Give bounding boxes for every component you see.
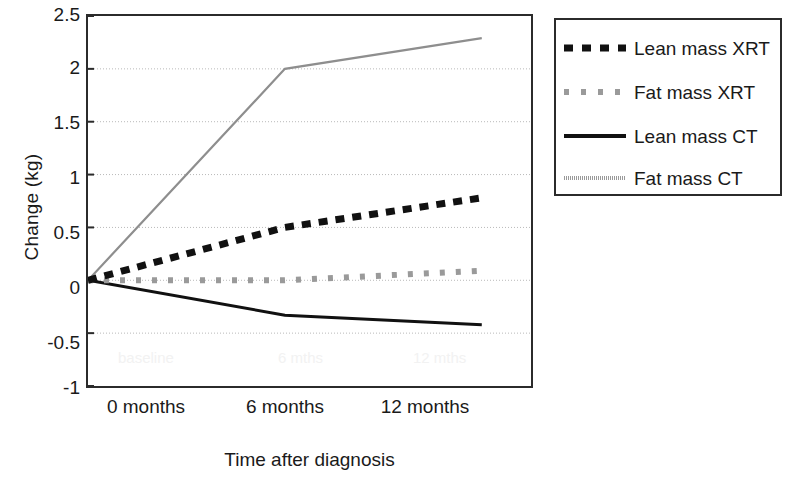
legend-label: Lean mass XRT (634, 39, 770, 58)
x-tick-label-0months: 0 months (66, 396, 226, 418)
legend-item-fat-mass-ct[interactable]: Fat mass CT (562, 158, 778, 198)
y-tick-label: -0.5 (20, 333, 80, 352)
legend-item-lean-mass-xrt[interactable]: Lean mass XRT (562, 28, 778, 68)
legend-label: Fat mass XRT (634, 83, 755, 102)
legend-item-fat-mass-xrt[interactable]: Fat mass XRT (562, 72, 778, 112)
y-tick-label: 2 (20, 58, 80, 77)
ghost-label-baseline: baseline (118, 349, 174, 366)
y-tick-label: 0.5 (20, 223, 80, 242)
y-tick-label: 1 (20, 168, 80, 187)
thin-gray-line-icon (562, 170, 628, 186)
y-tick-label: 1.5 (20, 113, 80, 132)
ghost-label-6mths: 6 mths (278, 349, 323, 366)
series-line (88, 271, 482, 281)
plot-canvas (88, 16, 531, 386)
x-tick-label-12months: 12 months (340, 396, 510, 418)
y-tick-label: 2.5 (20, 5, 80, 24)
dotted-line-icon (562, 84, 628, 100)
y-tick-label: -1 (20, 378, 80, 397)
plot-area: baseline 6 mths 12 mths (86, 14, 533, 388)
chart-figure: Change (kg) 2.5 2 1.5 1 0.5 0 -0.5 -1 ba… (0, 0, 792, 481)
dashed-line-icon (562, 40, 628, 56)
x-axis-title: Time after diagnosis (86, 449, 533, 471)
legend-label: Fat mass CT (634, 169, 743, 188)
series-line (88, 198, 482, 280)
chart-legend: Lean mass XRT Fat mass XRT Lean mass CT (554, 18, 782, 196)
series-line (88, 38, 482, 280)
legend-label: Lean mass CT (634, 127, 758, 146)
legend-item-lean-mass-ct[interactable]: Lean mass CT (562, 116, 778, 156)
solid-line-icon (562, 128, 628, 144)
y-tick-label: 0 (20, 278, 80, 297)
ghost-label-12mths: 12 mths (413, 349, 466, 366)
series-line (88, 280, 482, 324)
